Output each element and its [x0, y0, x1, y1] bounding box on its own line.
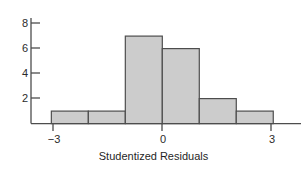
- plot-area: [0, 0, 307, 173]
- x-axis: [31, 124, 301, 131]
- x-tick-label-neg3: −3: [48, 133, 61, 145]
- histogram-bar: [51, 111, 88, 124]
- histogram-bar: [125, 36, 162, 124]
- histogram-bar: [162, 49, 199, 124]
- y-tick-label-8: 8: [12, 17, 28, 29]
- y-axis: [31, 18, 40, 124]
- histogram-figure: 8 6 4 2 −3 0 3 Studentized Residuals: [0, 0, 307, 173]
- x-axis-title: Studentized Residuals: [0, 150, 307, 162]
- y-tick-label-6: 6: [12, 42, 28, 54]
- y-tick-label-4: 4: [12, 67, 28, 79]
- bars-group: [51, 36, 273, 124]
- histogram-bar: [199, 99, 236, 124]
- histogram-bar: [236, 111, 273, 124]
- y-tick-label-2: 2: [12, 92, 28, 104]
- x-tick-label-3: 3: [269, 133, 275, 145]
- histogram-bar: [88, 111, 125, 124]
- x-tick-label-0: 0: [160, 133, 166, 145]
